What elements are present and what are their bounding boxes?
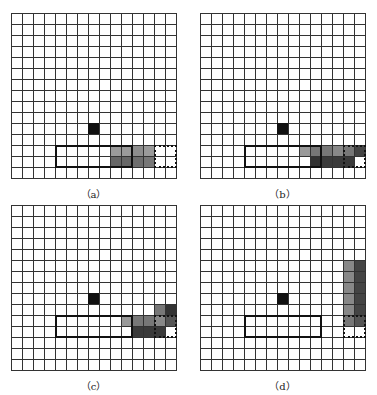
shaded-cell: [155, 305, 165, 315]
shaded-cell: [344, 283, 354, 293]
shaded-cell: [355, 283, 365, 293]
shaded-cell: [322, 146, 332, 156]
target-rect: [154, 145, 177, 168]
shaded-cell: [133, 316, 143, 326]
shaded-cell: [133, 157, 143, 167]
vehicle-rect: [55, 145, 133, 168]
obstacle-cell: [88, 293, 99, 304]
vehicle-rect: [244, 315, 322, 338]
target-rect: [154, 315, 177, 338]
shaded-cell: [133, 327, 143, 337]
shaded-cell: [355, 272, 365, 282]
panel-caption: （c）: [64, 378, 124, 393]
panel-caption: （a）: [64, 186, 124, 201]
shaded-cell: [322, 157, 332, 167]
shaded-cell: [144, 316, 154, 326]
shaded-cell: [333, 157, 343, 167]
shaded-cell: [355, 261, 365, 271]
target-rect: [343, 315, 366, 338]
grid: [200, 205, 366, 371]
obstacle-cell: [88, 123, 99, 134]
shaded-cell: [144, 157, 154, 167]
obstacle-cell: [277, 293, 288, 304]
shaded-cell: [144, 327, 154, 337]
shaded-cell: [344, 305, 354, 315]
shaded-cell: [333, 146, 343, 156]
panel-caption: （b）: [253, 186, 313, 201]
vehicle-rect: [55, 315, 133, 338]
vehicle-rect: [244, 145, 322, 168]
shaded-cell: [133, 146, 143, 156]
panel-caption: （d）: [253, 378, 313, 393]
grid: [11, 205, 177, 371]
shaded-cell: [355, 294, 365, 304]
shaded-cell: [144, 146, 154, 156]
shaded-cell: [344, 272, 354, 282]
shaded-cell: [166, 305, 176, 315]
shaded-cell: [344, 261, 354, 271]
shaded-cell: [344, 294, 354, 304]
target-rect: [343, 145, 366, 168]
obstacle-cell: [277, 123, 288, 134]
shaded-cell: [355, 305, 365, 315]
